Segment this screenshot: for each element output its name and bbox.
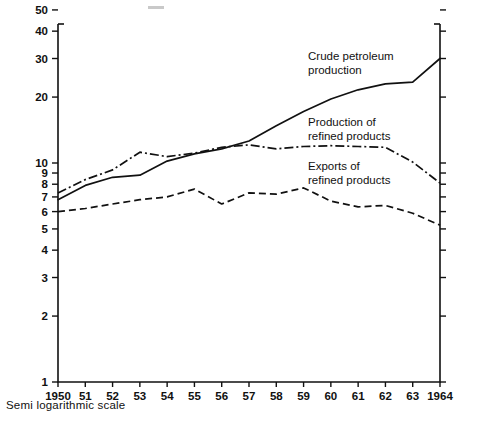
scan-artifact	[148, 6, 164, 9]
semi-log-line-chart: 5040302010987654321195051525354555657585…	[0, 0, 480, 421]
x-axis-tick-label: 62	[379, 390, 392, 402]
y-axis-tick-label: 1	[42, 376, 49, 388]
x-axis-tick-label: 53	[133, 390, 146, 402]
x-axis-tick-label: 58	[270, 390, 283, 402]
y-axis-tick-label: 30	[35, 53, 48, 65]
y-axis-tick-label: 4	[42, 244, 49, 256]
y-axis-tick-label: 6	[42, 206, 48, 218]
x-axis-tick-label: 55	[188, 390, 201, 402]
x-axis-tick-label: 1964	[427, 390, 453, 402]
y-axis-tick-label: 7	[42, 191, 48, 203]
y-axis-tick-label: 50	[35, 4, 48, 16]
x-axis-tick-label: 59	[297, 390, 310, 402]
series-annotation-production-refined: Production ofrefined products	[308, 116, 391, 142]
y-axis-tick-label: 2	[42, 310, 48, 322]
x-axis-tick-label: 57	[243, 390, 256, 402]
x-axis-tick-label: 61	[352, 390, 365, 402]
x-axis-tick-label: 54	[161, 390, 174, 402]
y-axis-tick-label: 8	[42, 178, 49, 190]
chart-annotations: Crude petroleumproductionProduction ofre…	[308, 50, 394, 186]
series-annotation-exports-refined: Exports ofrefined products	[308, 160, 391, 186]
y-axis-tick-label: 20	[35, 91, 48, 103]
y-axis-tick-label: 3	[42, 272, 48, 284]
chart-figure: 5040302010987654321195051525354555657585…	[0, 0, 480, 421]
x-axis-tick-label: 60	[324, 390, 337, 402]
chart-caption: Semi logarithmic scale	[6, 399, 125, 411]
chart-tick-labels: 5040302010987654321195051525354555657585…	[35, 4, 453, 402]
y-axis-tick-label: 40	[35, 25, 48, 37]
series-annotation-crude: Crude petroleumproduction	[308, 50, 394, 76]
data-series-line	[58, 188, 440, 225]
x-axis-tick-label: 63	[406, 390, 419, 402]
x-axis-tick-label: 56	[215, 390, 228, 402]
chart-axes	[52, 10, 446, 387]
y-axis-tick-label: 5	[42, 223, 49, 235]
y-axis-tick-label: 9	[42, 167, 48, 179]
